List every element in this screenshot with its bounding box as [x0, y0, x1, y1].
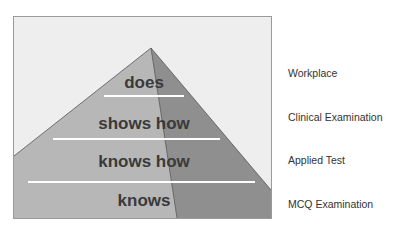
- assessment-clinical-examination: Clinical Examination: [288, 111, 383, 123]
- assessment-workplace: Workplace: [288, 67, 337, 79]
- level-does: does: [124, 73, 164, 92]
- level-knows: knows: [118, 191, 171, 210]
- assessment-mcq-examination: MCQ Examination: [288, 198, 373, 210]
- level-knows-how: knows how: [98, 152, 190, 171]
- assessment-applied-test: Applied Test: [288, 154, 345, 166]
- level-shows-how: shows how: [98, 114, 190, 133]
